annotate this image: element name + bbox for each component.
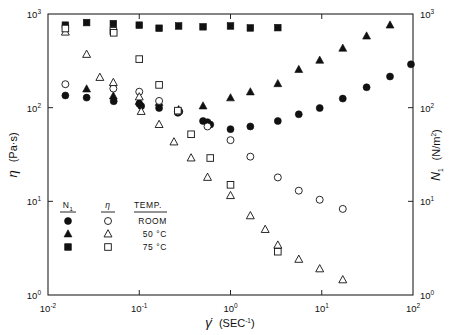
svg-text:η (Pa·s): η (Pa·s) xyxy=(5,132,20,177)
legend-temp-label: 75 °C xyxy=(143,242,167,252)
legend-temp-label: ROOM xyxy=(138,216,167,226)
rheology-scatter-chart: 10-210-110010110210010010110110210210310… xyxy=(0,0,453,335)
chart-background xyxy=(0,0,453,335)
y-axis-left-title: η (Pa·s) xyxy=(5,132,20,177)
legend-temp-label: 50 °C xyxy=(143,229,167,239)
figure-container: 10-210-110010110210010010110110210210310… xyxy=(0,0,453,335)
legend-text: TEMP. xyxy=(134,200,162,210)
svg-text:η: η xyxy=(105,200,110,210)
